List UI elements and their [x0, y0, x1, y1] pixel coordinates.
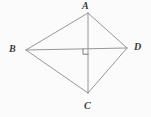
diagonal-bd-line [26, 48, 127, 50]
side-ad-line [88, 13, 127, 48]
vertex-label-c: C [84, 101, 91, 111]
right-angle-square-icon [83, 49, 88, 54]
side-cd-line [88, 48, 127, 93]
side-bc-line [26, 50, 88, 93]
vertex-label-d: D [134, 42, 141, 52]
vertex-label-a: A [82, 1, 89, 11]
geometry-figure-kite-abcd: A B C D [0, 0, 151, 117]
side-ab-line [26, 13, 88, 50]
geometry-diagram-svg [0, 0, 151, 117]
vertex-label-b: B [9, 44, 16, 54]
